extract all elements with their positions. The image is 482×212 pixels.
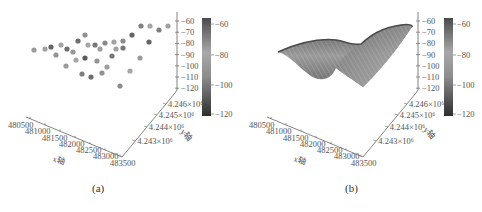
y-tick-label: 4.243×10⁶ xyxy=(378,136,413,146)
scatter-point xyxy=(85,42,90,47)
colorbar-tick-label: −100 xyxy=(215,80,233,90)
colorbar-tick-label: −120 xyxy=(215,109,233,119)
scatter-point xyxy=(109,53,114,58)
surface-3d-plot: −60−70−80−90−100−110−120 480500481000481… xyxy=(241,0,482,212)
y-tick-label: 4.246×10⁶ xyxy=(168,99,203,109)
scatter-point xyxy=(79,71,84,76)
x-tick-label: 483500 xyxy=(110,158,136,168)
colorbar-tick-label: −60 xyxy=(457,19,470,29)
y-tick-label: 4.245×10⁶ xyxy=(159,110,194,120)
scatter-point xyxy=(64,46,69,51)
scatter-point xyxy=(113,46,118,51)
scatter-point xyxy=(70,49,75,54)
panel-b-surface: −60−70−80−90−100−110−120 480500481000481… xyxy=(241,0,482,212)
scatter-point xyxy=(88,74,93,79)
y-tick-label: 4.246×10⁶ xyxy=(409,99,444,109)
scatter-point xyxy=(58,42,63,47)
panel-a-scatter: −60−70−80−90−100−110−120 480500481000481… xyxy=(0,0,241,212)
z-tick-label: −110 xyxy=(181,72,198,82)
scatter-point xyxy=(129,32,134,37)
scatter-point xyxy=(63,63,68,68)
colorbar xyxy=(202,18,211,116)
colorbar-tick-label: −100 xyxy=(457,80,475,90)
caption-b: (b) xyxy=(345,182,358,194)
scatter-point xyxy=(48,44,53,49)
z-tick-label: −110 xyxy=(422,72,439,82)
y-tick-label: 4.244×10⁶ xyxy=(390,122,425,132)
z-tick-label: −90 xyxy=(422,50,435,60)
z-tick-label: −100 xyxy=(181,61,199,71)
colorbar-tick-label: −60 xyxy=(215,19,228,29)
scatter-point xyxy=(147,23,152,28)
scatter-point xyxy=(146,39,151,44)
scatter-point xyxy=(92,42,97,47)
scatter-point xyxy=(82,32,87,37)
scatter-point xyxy=(117,83,122,88)
x-axis-label: x轴 xyxy=(51,153,67,167)
y-tick-label: 4.243×10⁶ xyxy=(137,136,172,146)
scatter-point xyxy=(75,38,80,43)
z-tick-label: −70 xyxy=(181,27,194,37)
colorbar-tick-label: −80 xyxy=(215,50,228,60)
z-tick-label: −70 xyxy=(422,27,435,37)
scatter-point xyxy=(102,40,107,45)
scatter-point xyxy=(111,39,116,44)
scatter-point xyxy=(94,58,99,63)
scatter-point xyxy=(137,55,142,60)
z-tick-label: −120 xyxy=(181,83,199,93)
y-tick-label: 4.245×10⁶ xyxy=(400,110,435,120)
z-tick-label: −100 xyxy=(422,61,440,71)
scatter-point xyxy=(53,52,58,57)
caption-a: (a) xyxy=(92,182,104,194)
x-axis-label: x轴 xyxy=(292,153,308,167)
z-tick-label: −120 xyxy=(422,83,440,93)
scatter-point xyxy=(165,23,170,28)
scatter-point xyxy=(104,64,109,69)
scatter-point xyxy=(31,47,36,52)
colorbar xyxy=(444,18,453,116)
scatter-3d-plot: −60−70−80−90−100−110−120 480500481000481… xyxy=(0,0,241,212)
surface-mesh xyxy=(278,25,412,87)
scatter-point xyxy=(82,55,87,60)
z-tick-label: −90 xyxy=(181,50,194,60)
z-tick-label: −60 xyxy=(422,16,435,26)
scatter-point xyxy=(97,46,102,51)
colorbar-tick-label: −120 xyxy=(457,109,475,119)
scatter-point xyxy=(73,57,78,62)
scatter-point xyxy=(42,46,47,51)
scatter-point xyxy=(99,70,104,75)
scatter-point xyxy=(156,27,161,32)
z-tick-label: −80 xyxy=(181,38,194,48)
z-tick-label: −60 xyxy=(181,16,194,26)
scatter-point xyxy=(120,38,125,43)
scatter-point xyxy=(127,68,132,73)
z-tick-label: −80 xyxy=(422,38,435,48)
scatter-point xyxy=(120,45,125,50)
scatter-point xyxy=(138,23,143,28)
scatter-points xyxy=(31,23,170,88)
x-tick-label: 483500 xyxy=(351,158,377,168)
y-tick-label: 4.244×10⁶ xyxy=(149,122,184,132)
colorbar-tick-label: −80 xyxy=(457,50,470,60)
